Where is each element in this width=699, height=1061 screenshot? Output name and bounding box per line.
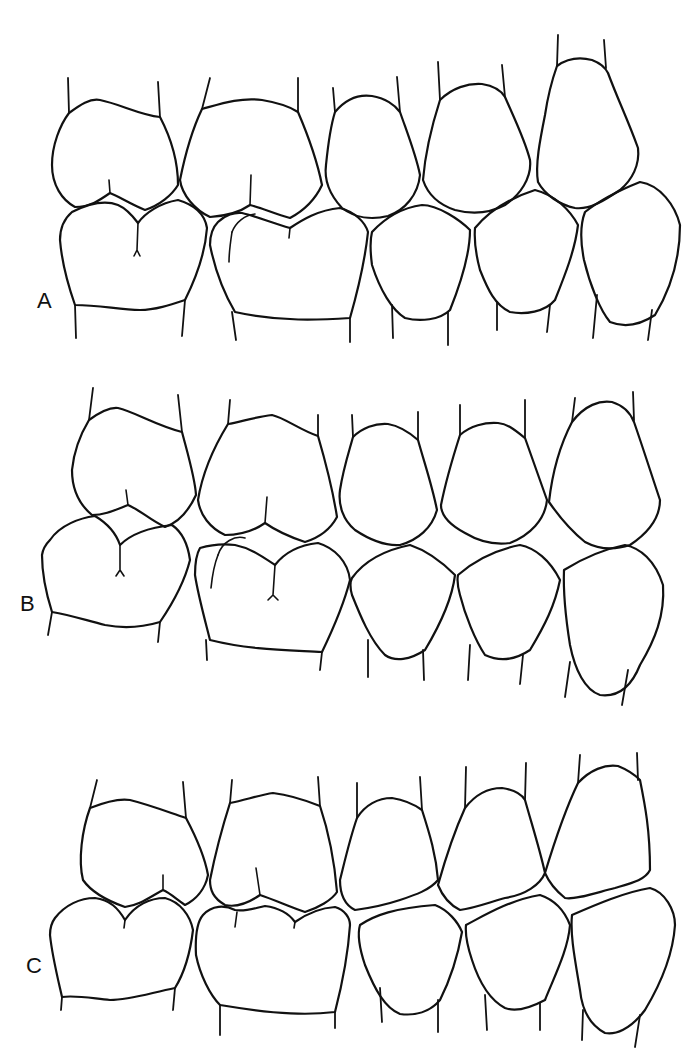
lower-premolar-1	[351, 545, 456, 659]
panel-label-a: A	[37, 290, 52, 312]
upper-premolar-2	[441, 423, 547, 544]
panel-c-upper-row	[81, 753, 650, 912]
upper-premolar-1	[340, 798, 438, 910]
upper-premolar-1	[340, 424, 437, 545]
upper-molar-2	[198, 415, 337, 542]
panel-a-drawing	[52, 35, 680, 345]
upper-molar-1	[81, 799, 208, 907]
panel-label-b: B	[20, 593, 35, 615]
occlusion-diagram	[0, 0, 699, 1061]
upper-premolar-2	[423, 84, 530, 213]
lower-premolar-2	[458, 545, 560, 659]
panel-a-upper-row	[52, 35, 638, 218]
uper-canine	[549, 402, 660, 549]
lower-canine	[572, 888, 675, 1033]
panel-b-lower-row	[42, 516, 663, 705]
upper-molar-2	[180, 99, 322, 218]
lower-molar-1	[42, 516, 190, 627]
lower-molar-1	[50, 898, 193, 1000]
panel-b-drawing	[42, 388, 663, 705]
lower-molar-2	[195, 543, 350, 652]
lower-molar-2	[196, 906, 350, 1014]
upper-canine	[545, 766, 650, 899]
upper-canine	[537, 58, 638, 208]
lower-premolar-2	[466, 895, 570, 1010]
lower-premolar-2	[475, 190, 578, 313]
lower-molar-1	[60, 200, 207, 310]
upper-molar-2	[210, 793, 337, 912]
lower-premolar-1	[371, 205, 471, 320]
upper-premolar-2	[438, 788, 545, 910]
lower-canine	[564, 545, 663, 695]
panel-c-drawing	[50, 753, 675, 1047]
panel-c-lower-row	[50, 888, 675, 1047]
upper-molar-1	[72, 408, 196, 527]
lower-premolar-1	[359, 905, 462, 1014]
upper-premolar-1	[326, 96, 420, 218]
panel-label-c: C	[26, 955, 42, 977]
lower-molar-2	[210, 208, 368, 320]
panel-b-upper-row	[72, 388, 660, 548]
